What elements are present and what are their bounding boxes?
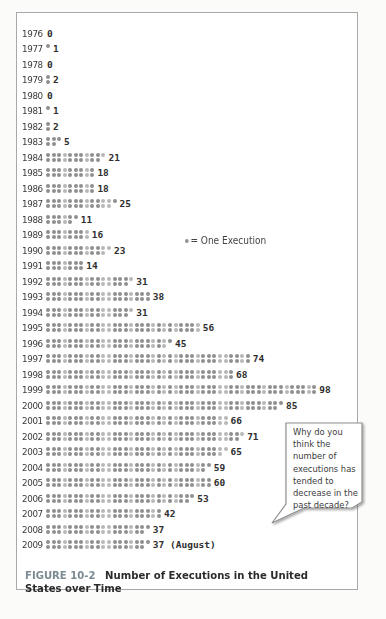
execution-dot-icon	[96, 328, 100, 332]
execution-dot-icon	[90, 375, 94, 379]
execution-dot-icon	[101, 313, 105, 317]
execution-dot-icon	[107, 499, 111, 503]
execution-dot-icon	[207, 483, 211, 487]
execution-dot-icon	[52, 385, 56, 389]
execution-dot-icon	[57, 370, 61, 374]
execution-dot-icon	[74, 282, 78, 286]
year-label: 2004	[22, 462, 42, 473]
execution-dot-icon	[246, 359, 250, 363]
execution-dot-icon	[124, 297, 128, 301]
execution-dot-icon	[190, 359, 194, 363]
execution-dot-icon	[224, 416, 228, 420]
execution-dot-icon	[96, 390, 100, 394]
execution-dot-icon	[224, 390, 228, 394]
execution-dot-icon	[140, 525, 144, 529]
execution-dot-icon	[85, 277, 89, 281]
execution-dot-icon	[140, 359, 144, 363]
execution-dot-icon	[79, 292, 83, 296]
execution-dot-icon	[90, 416, 94, 420]
execution-dot-icon	[68, 385, 72, 389]
execution-dot-icon	[157, 468, 161, 472]
execution-dot-icon	[79, 499, 83, 503]
execution-dot-icon	[79, 530, 83, 534]
year-label: 1998	[22, 369, 42, 380]
execution-dot-icon	[212, 437, 216, 441]
execution-dot-icon	[63, 308, 67, 312]
execution-dot-icon	[185, 406, 189, 410]
execution-dot-icon	[52, 339, 56, 343]
execution-dot-icon	[174, 432, 178, 436]
chart-row: 199774	[22, 352, 264, 366]
execution-dot-icon	[90, 525, 94, 529]
execution-dot-icon	[240, 432, 244, 436]
execution-dot-icon	[157, 478, 161, 482]
execution-dot-icon	[224, 401, 228, 405]
execution-dot-icon	[196, 478, 200, 482]
execution-dot-icon	[52, 251, 56, 255]
execution-dot-icon	[174, 478, 178, 482]
execution-dot-icon	[101, 509, 105, 513]
execution-dot-icon	[162, 468, 166, 472]
execution-dot-icon	[185, 354, 189, 358]
execution-dot-icon	[57, 308, 61, 312]
execution-dot-icon	[46, 416, 50, 420]
execution-dot-icon	[218, 401, 222, 405]
count-label: 0	[47, 90, 53, 101]
execution-dot-icon	[113, 478, 117, 482]
execution-dot-icon	[157, 499, 161, 503]
chart-row: 199645	[22, 336, 186, 350]
execution-dot-icon	[162, 432, 166, 436]
execution-dot-icon	[96, 385, 100, 389]
execution-dot-icon	[52, 359, 56, 363]
execution-dot-icon	[85, 385, 89, 389]
count-label: 5	[64, 136, 70, 147]
execution-dot-icon	[85, 246, 89, 250]
execution-dot-icon	[129, 323, 133, 327]
execution-dot-icon	[179, 483, 183, 487]
execution-dot-icon	[196, 401, 200, 405]
execution-dot-icon	[135, 452, 139, 456]
execution-dot-icon	[46, 220, 50, 224]
execution-dot-icon	[174, 406, 178, 410]
execution-dot-icon	[201, 370, 205, 374]
execution-dot-icon	[113, 199, 117, 203]
year-label: 2000	[22, 400, 42, 411]
execution-dot-icon	[101, 282, 105, 286]
execution-dot-icon	[129, 468, 133, 472]
execution-dot-icon	[129, 292, 133, 296]
execution-dot-icon	[57, 406, 61, 410]
execution-dot-icon	[79, 525, 83, 529]
execution-dot-icon	[96, 313, 100, 317]
execution-dot-icon	[52, 447, 56, 451]
execution-dot-icon	[90, 199, 94, 203]
chart-row: 198916	[22, 228, 103, 242]
execution-dot-icon	[68, 230, 72, 234]
execution-dot-icon	[146, 468, 150, 472]
execution-dot-icon	[107, 277, 111, 281]
execution-dot-icon	[124, 463, 128, 467]
execution-dot-icon	[63, 514, 67, 518]
execution-dot-icon	[124, 545, 128, 549]
execution-dot-icon	[113, 401, 117, 405]
execution-dot-icon	[118, 354, 122, 358]
execution-dot-icon	[90, 509, 94, 513]
execution-dot-icon	[68, 525, 72, 529]
execution-dot-icon	[129, 328, 133, 332]
execution-dot-icon	[174, 452, 178, 456]
execution-dot-icon	[301, 385, 305, 389]
execution-dot-icon	[57, 313, 61, 317]
execution-dot-icon	[201, 421, 205, 425]
execution-dot-icon	[151, 509, 155, 513]
execution-dot-icon	[212, 385, 216, 389]
execution-dot-icon	[107, 483, 111, 487]
execution-dot-icon	[85, 540, 89, 544]
execution-dot-icon	[129, 354, 133, 358]
execution-dot-icon	[140, 390, 144, 394]
execution-dot-icon	[52, 375, 56, 379]
execution-dot-icon	[85, 168, 89, 172]
execution-dot-icon	[113, 452, 117, 456]
execution-dot-icon	[151, 375, 155, 379]
execution-dot-icon	[79, 297, 83, 301]
execution-dot-icon	[129, 401, 133, 405]
execution-dot-icon	[63, 173, 67, 177]
